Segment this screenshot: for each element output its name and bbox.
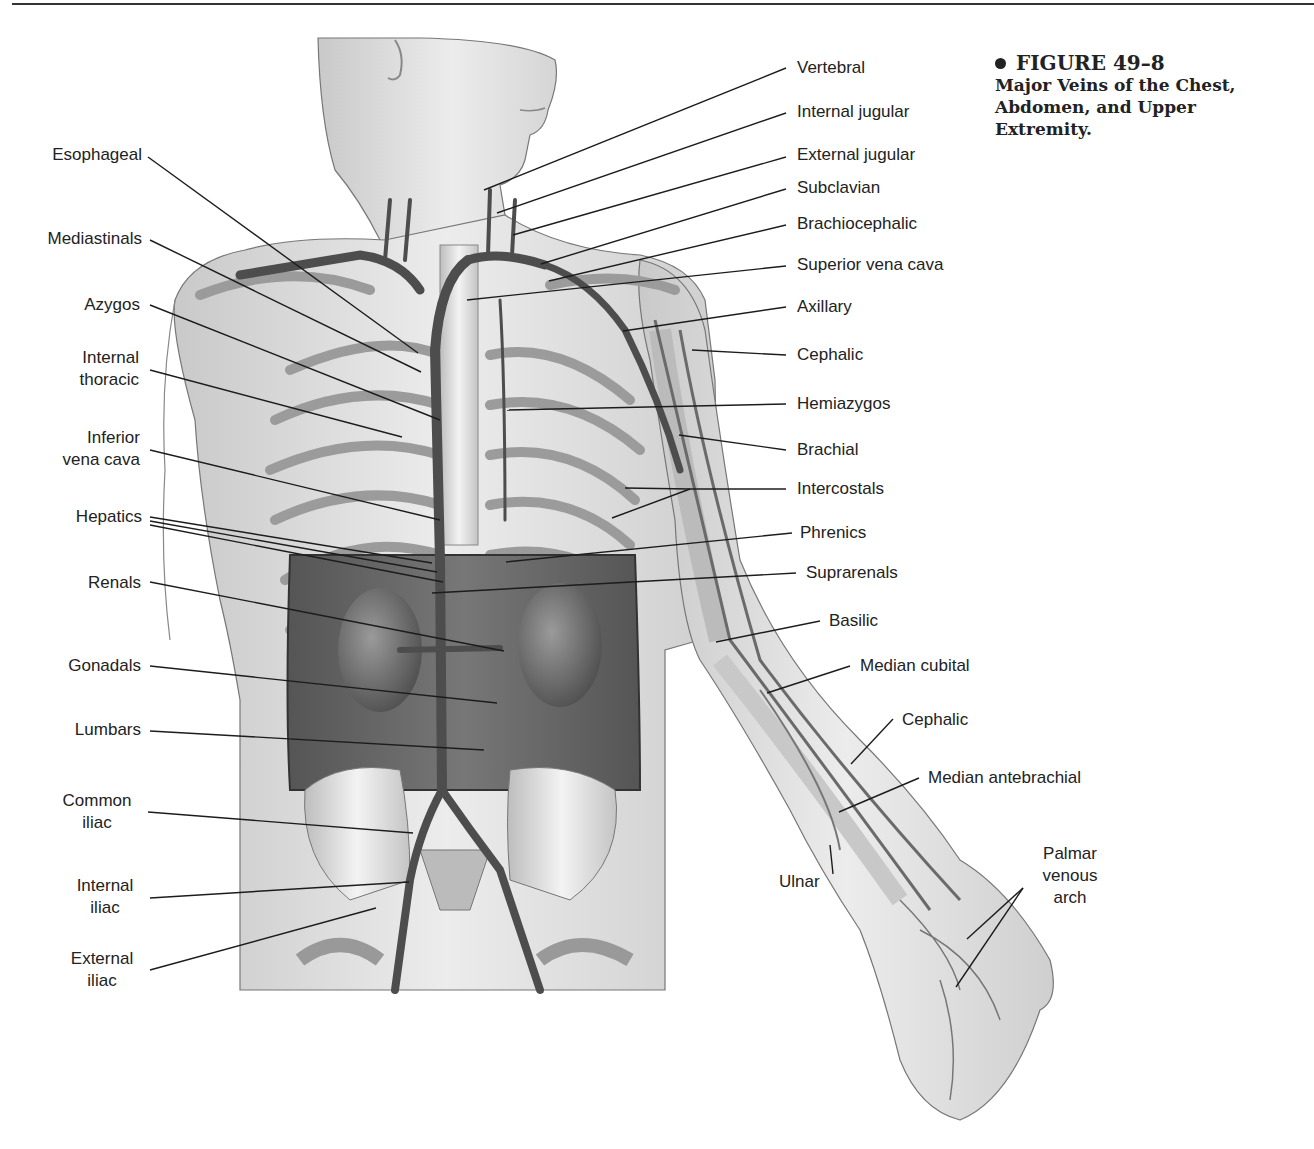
- label-esophageal: Esophageal: [52, 144, 142, 166]
- label-median-antebrachial: Median antebrachial: [928, 767, 1081, 789]
- label-mediastinals: Mediastinals: [48, 228, 143, 250]
- bullet-icon: [995, 58, 1006, 69]
- label-ulnar: Ulnar: [779, 871, 820, 893]
- label-gonadals: Gonadals: [68, 655, 141, 677]
- label-internal-thoracic: Internal thoracic: [79, 347, 139, 391]
- label-suprarenals: Suprarenals: [806, 562, 898, 584]
- arm: [639, 260, 1054, 1120]
- label-axillary: Axillary: [797, 296, 852, 318]
- label-inferior-vena-cava: Inferior vena cava: [63, 427, 141, 471]
- label-renals: Renals: [88, 572, 141, 594]
- label-phrenics: Phrenics: [800, 522, 866, 544]
- label-basilic: Basilic: [829, 610, 878, 632]
- label-external-iliac: External iliac: [62, 948, 142, 992]
- label-cephalic-upper: Cephalic: [797, 344, 863, 366]
- figure-title-line: Extremity.: [995, 118, 1314, 140]
- label-external-jugular: External jugular: [797, 144, 915, 166]
- label-internal-iliac: Internal iliac: [65, 875, 145, 919]
- label-brachial: Brachial: [797, 439, 858, 461]
- label-lumbars: Lumbars: [75, 719, 141, 741]
- label-vertebral: Vertebral: [797, 57, 865, 79]
- figure-caption: FIGURE 49–8 Major Veins of the Chest, Ab…: [995, 52, 1314, 140]
- label-internal-jugular: Internal jugular: [797, 101, 909, 123]
- label-median-cubital: Median cubital: [860, 655, 970, 677]
- label-common-iliac: Common iliac: [52, 790, 142, 834]
- label-cephalic-forearm: Cephalic: [902, 709, 968, 731]
- label-hepatics: Hepatics: [76, 506, 142, 528]
- label-brachiocephalic: Brachiocephalic: [797, 213, 917, 235]
- label-intercostals: Intercostals: [797, 478, 884, 500]
- label-azygos: Azygos: [84, 294, 140, 316]
- label-hemiazygos: Hemiazygos: [797, 393, 891, 415]
- figure-title-line: Abdomen, and Upper: [995, 96, 1314, 118]
- anatomy-illustration: [0, 0, 1314, 1149]
- figure-title-line: Major Veins of the Chest,: [995, 74, 1314, 96]
- figure-number: FIGURE 49–8: [995, 52, 1314, 74]
- left-kidney: [518, 583, 602, 707]
- label-superior-vena-cava: Superior vena cava: [797, 254, 943, 276]
- label-palmar-venous-arch: Palmar venous arch: [1030, 843, 1110, 909]
- label-subclavian: Subclavian: [797, 177, 880, 199]
